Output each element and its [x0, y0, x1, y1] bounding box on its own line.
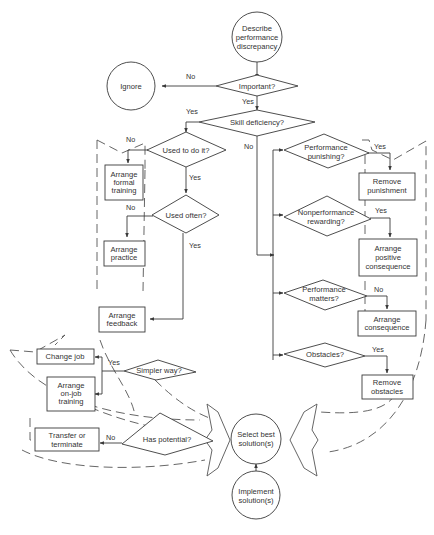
svg-text:solution(s): solution(s) [238, 496, 273, 505]
svg-text:training: training [112, 186, 137, 195]
svg-text:Select best: Select best [237, 430, 275, 439]
node-implement-solutions: Implement solution(s) [232, 471, 280, 519]
flowchart-canvas: Describe performance discrepancy Ignore … [0, 0, 434, 535]
label-skill-no: No [244, 142, 253, 151]
svg-text:Transfer or: Transfer or [49, 431, 86, 440]
svg-text:Performance: Performance [302, 285, 345, 294]
label-used-often-yes: Yes [189, 241, 201, 250]
svg-text:Implement: Implement [238, 487, 274, 496]
label-simpler-yes: Yes [108, 358, 120, 367]
svg-text:performance: performance [236, 33, 279, 42]
label-matters-no: No [374, 285, 383, 294]
svg-text:Change job: Change job [46, 352, 85, 361]
node-performance-punishing-decision: Performance punishing? [284, 134, 369, 168]
node-skill-deficiency-decision: Skill deficiency? [199, 110, 315, 136]
label-potential-no: No [106, 433, 115, 442]
node-select-best-solutions: Select best solution(s) [231, 414, 281, 464]
node-obstacles-decision: Obstacles? [284, 343, 365, 367]
svg-text:Used often?: Used often? [166, 211, 207, 220]
svg-text:feedback: feedback [107, 319, 138, 328]
node-simpler-way-decision: Simpler way? [124, 360, 196, 380]
node-arrange-practice: Arrange practice [104, 241, 145, 266]
node-performance-matters-decision: Performance matters? [284, 280, 367, 310]
node-transfer-or-terminate: Transfer or terminate [35, 428, 99, 451]
node-change-job: Change job [37, 349, 94, 364]
label-rewarding-yes: Yes [375, 206, 387, 215]
svg-text:Important?: Important? [239, 82, 275, 91]
svg-text:terminate: terminate [51, 440, 83, 449]
svg-text:practice: practice [111, 253, 138, 262]
label-skill-yes: Yes [186, 107, 198, 116]
node-remove-obstacles: Remove obstacles [362, 375, 413, 399]
right-big-arrowhead [290, 404, 318, 476]
node-arrange-feedback: Arrange feedback [99, 307, 145, 332]
label-important-no: No [186, 72, 195, 81]
svg-text:Ignore: Ignore [120, 82, 142, 91]
svg-text:Simpler way?: Simpler way? [136, 366, 182, 375]
label-used-often-no: No [126, 203, 135, 212]
label-important-yes: Yes [242, 97, 254, 106]
node-has-potential-decision: Has potential? [122, 413, 213, 455]
node-describe-performance-discrepancy: Describe performance discrepancy [232, 12, 282, 62]
label-obstacles-yes: Yes [372, 345, 384, 354]
svg-text:Nonperformance: Nonperformance [298, 208, 355, 217]
svg-text:Describe: Describe [242, 24, 272, 33]
svg-text:punishment: punishment [367, 186, 407, 195]
svg-text:punishing?: punishing? [308, 152, 345, 161]
svg-text:Performance: Performance [304, 143, 347, 152]
node-ignore: Ignore [107, 62, 155, 110]
svg-text:Obstacles?: Obstacles? [306, 350, 344, 359]
label-punishing-yes: Yes [374, 142, 386, 151]
svg-text:obstacles: obstacles [371, 387, 403, 396]
svg-text:matters?: matters? [309, 294, 339, 303]
svg-text:Remove: Remove [373, 177, 401, 186]
node-used-often-decision: Used often? [152, 195, 219, 233]
node-nonperformance-rewarding-decision: Nonperformance rewarding? [284, 196, 371, 236]
svg-text:training: training [59, 397, 84, 406]
svg-text:consequence: consequence [364, 323, 409, 332]
node-important-decision: Important? [216, 75, 298, 96]
flowchart: Describe performance discrepancy Ignore … [0, 0, 434, 535]
node-arrange-formal-training: Arrange formal training [105, 165, 143, 200]
node-arrange-consequence: Arrange consequence [358, 311, 416, 336]
svg-text:discrepancy: discrepancy [237, 42, 278, 51]
svg-text:consequence: consequence [365, 262, 410, 271]
svg-text:solution(s): solution(s) [238, 439, 273, 448]
svg-text:Skill deficiency?: Skill deficiency? [230, 118, 284, 127]
svg-text:Used to do it?: Used to do it? [163, 146, 210, 155]
svg-text:rewarding?: rewarding? [307, 217, 345, 226]
node-remove-punishment: Remove punishment [359, 173, 415, 200]
node-arrange-on-job-training: Arrange on-job training [47, 377, 95, 411]
svg-text:Remove: Remove [373, 378, 401, 387]
svg-text:Arrange: Arrange [374, 244, 401, 253]
node-arrange-positive-consequence: Arrange positive consequence [359, 239, 417, 276]
svg-text:positive: positive [375, 253, 401, 262]
label-used-to-do-it-no: No [126, 135, 135, 144]
label-used-to-do-it-yes: Yes [189, 173, 201, 182]
node-used-to-do-it-decision: Used to do it? [147, 132, 226, 167]
svg-text:Has potential?: Has potential? [143, 435, 192, 444]
